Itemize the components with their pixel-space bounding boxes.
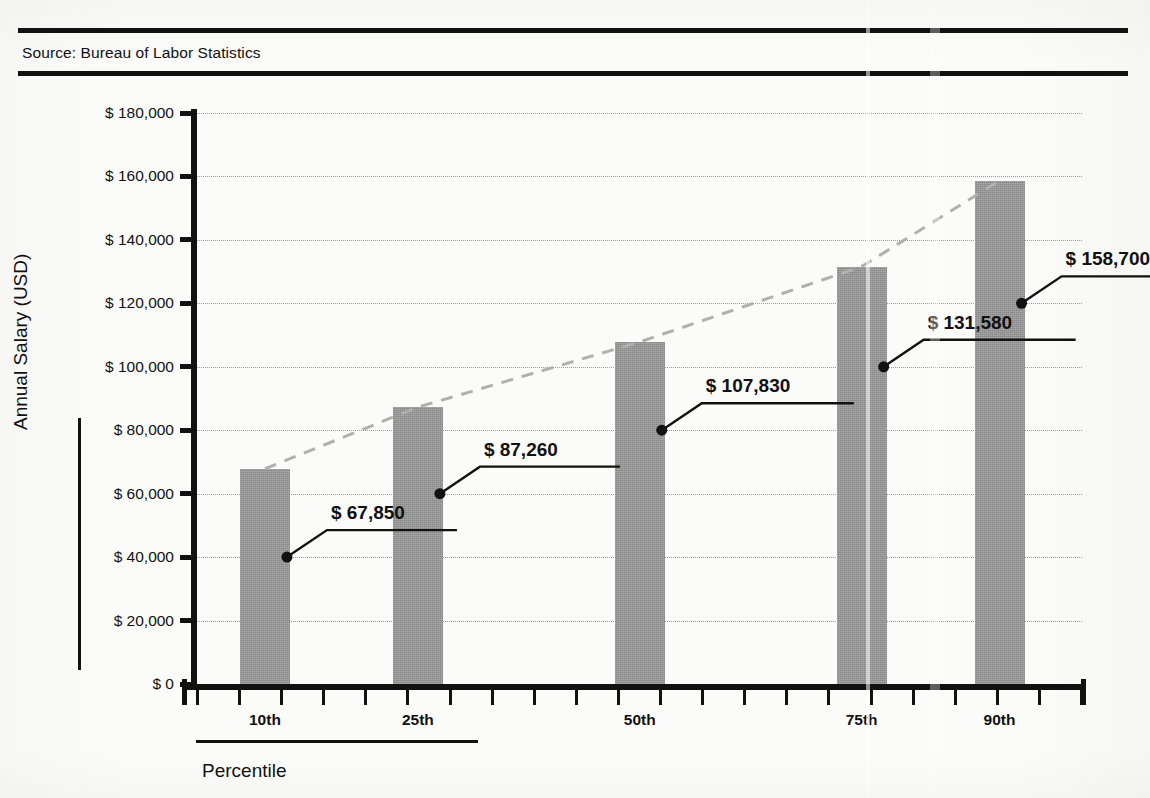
data-label-75th: $ 131,580 [928,312,1013,334]
x-axis-label-25th: 25th [402,711,434,729]
leader-dot [1016,298,1027,309]
x-axis-label-90th: 90th [984,711,1016,729]
y-axis-tick-label: $ 40,000 [114,548,174,566]
clipped-title [250,0,890,3]
x-tick [701,690,704,705]
x-tick [575,690,578,705]
x-axis-line [182,684,1086,690]
x-tick [238,690,241,705]
x-tick [1038,690,1041,705]
leader-line [440,467,620,494]
x-tick [449,690,452,705]
x-tick [827,690,830,705]
y-tick [180,237,197,242]
y-axis-title: Annual Salary (USD) [10,254,32,430]
y-tick [180,491,197,496]
y-axis-tick-label: $ 160,000 [105,167,174,185]
x-tick [406,690,409,705]
y-tick [180,555,197,560]
leader-line [1022,276,1150,303]
header-rule-bottom [18,71,1128,76]
chart-page: Source: Bureau of Labor Statistics Annua… [0,0,1150,798]
y-tick [180,301,197,306]
x-tick [659,690,662,705]
label-leader-lines [196,113,1080,684]
y-axis-tick-label: $ 60,000 [114,485,174,503]
x-tick [491,690,494,705]
y-axis-tick-label: $ 0 [152,675,174,693]
leader-dot [656,425,667,436]
leader-dot [281,552,292,563]
y-axis-tick-label: $ 80,000 [114,421,174,439]
data-label-10th: $ 67,850 [331,502,405,524]
x-tick [280,690,283,705]
leader-line [287,530,457,557]
x-axis-endcap [1081,679,1086,705]
x-tick [364,690,367,705]
y-axis-tick-label: $ 20,000 [114,612,174,630]
x-tick [954,690,957,705]
x-tick [785,690,788,705]
data-label-90th: $ 158,700 [1066,248,1150,270]
data-label-50th: $ 107,830 [706,375,791,397]
data-label-25th: $ 87,260 [484,439,558,461]
x-axis-title-rule [196,740,478,743]
x-axis-label-10th: 10th [249,711,281,729]
x-tick [322,690,325,705]
x-axis-label-50th: 50th [624,711,656,729]
leader-dot [434,488,445,499]
y-axis-tick-label: $ 100,000 [105,358,174,376]
x-tick [743,690,746,705]
leader-line [662,403,854,430]
y-tick [180,364,197,369]
x-tick [196,690,199,705]
x-tick [870,690,873,705]
y-tick [180,618,197,623]
y-tick [180,111,197,116]
x-tick [996,690,999,705]
plot-area: $ 0$ 20,000$ 40,000$ 60,000$ 80,000$ 100… [196,113,1080,684]
y-axis-tick-label: $ 120,000 [105,294,174,312]
leader-line [884,340,1076,367]
y-axis-tick-label: $ 140,000 [105,231,174,249]
y-axis-tick-label: $ 180,000 [105,104,174,122]
x-tick [533,690,536,705]
x-axis-title: Percentile [202,760,287,782]
source-label: Source: Bureau of Labor Statistics [22,44,261,62]
leader-dot [878,361,889,372]
x-tick [617,690,620,705]
y-tick [180,428,197,433]
x-tick [912,690,915,705]
y-tick [180,174,197,179]
y-axis-title-rule [78,418,81,670]
x-axis-endcap [182,679,187,705]
header-rule-top [18,28,1128,33]
x-axis-label-75th: 75th [846,711,878,729]
